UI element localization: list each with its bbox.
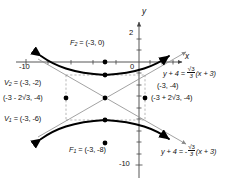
y-tick-minus-10: -10 — [119, 160, 130, 168]
vertex-1-value: = (-3, -6) — [12, 114, 42, 123]
x-tick-minus-10: -10 — [19, 63, 30, 71]
asymptote-lower-lhs: y + 4 = — [161, 147, 185, 156]
label-focus-1: F1 = (-3, -8) — [69, 146, 106, 154]
asymptote-lower-fraction: √33 — [188, 144, 196, 158]
point-focus-2 — [103, 60, 108, 65]
point-covertex-left — [64, 96, 69, 101]
point-vertex-1 — [103, 118, 108, 123]
focus-1-value: = (-3, -8) — [76, 145, 106, 154]
asymptote-upper-fraction: √33 — [187, 66, 195, 80]
asymptote-upper-rhs: (x + 3) — [195, 69, 215, 78]
point-vertex-2 — [103, 73, 108, 78]
label-covertex-left: (-3 - 2√3, -4) — [3, 94, 43, 101]
y-tick-2: 2 — [129, 29, 133, 37]
focus-2-value: = (-3, 0) — [77, 38, 104, 47]
asymptote-lower-rhs: (x + 3) — [196, 147, 216, 156]
label-vertex-2: V2 = (-3, -2) — [4, 79, 41, 87]
plot-points — [64, 60, 148, 146]
point-covertex-right — [143, 96, 148, 101]
y-tick-0: 0 — [130, 63, 134, 71]
vertex-2-value: = (-3, -2) — [12, 78, 42, 87]
y-axis — [136, 22, 143, 178]
equation-asymptote-lower: y + 4 = -√33(x + 3) — [161, 144, 216, 158]
asymptote-upper-lhs: y + 4 = — [163, 69, 187, 78]
label-vertex-1: V1 = (-3, -6) — [4, 115, 41, 123]
equation-asymptote-upper: y + 4 = √33(x + 3) — [163, 66, 216, 80]
asymptote-upper-denominator: 3 — [187, 73, 195, 79]
label-center: (-3, -4) — [157, 82, 178, 89]
x-axis-label: x — [185, 53, 189, 61]
label-covertex-right: (-3 + 2√3, -4) — [151, 94, 192, 101]
point-center — [103, 96, 108, 101]
y-axis-label: y — [142, 8, 146, 16]
label-focus-2: F2 = (-3, 0) — [70, 39, 104, 47]
hyperbola-figure: y x -10 2 0 -10 F2 = (-3, 0) V2 = (-3, -… — [0, 0, 251, 185]
asymptote-lower-denominator: 3 — [188, 151, 196, 157]
